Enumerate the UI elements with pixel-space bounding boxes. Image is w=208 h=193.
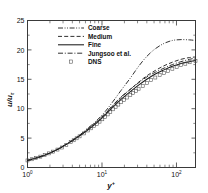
y-tick-label: 5	[21, 135, 25, 142]
y-axis-title-text: u/u	[5, 95, 14, 107]
figure-container: 0510152025 100101102 u/uτ y+ CoarseMediu…	[0, 0, 208, 193]
y-tick-label: 15	[17, 76, 25, 83]
legend-label: Coarse	[88, 24, 110, 31]
line-chart: 0510152025 100101102 u/uτ y+ CoarseMediu…	[0, 0, 208, 193]
y-tick-label: 20	[17, 47, 25, 54]
y-tick-label: 10	[17, 105, 25, 112]
legend-label: Fine	[88, 41, 102, 48]
legend-label: Jungsoo et al.	[88, 50, 131, 58]
legend-label: Medium	[88, 33, 112, 40]
legend-label: DNS	[88, 58, 102, 65]
y-tick-label: 25	[17, 17, 25, 24]
